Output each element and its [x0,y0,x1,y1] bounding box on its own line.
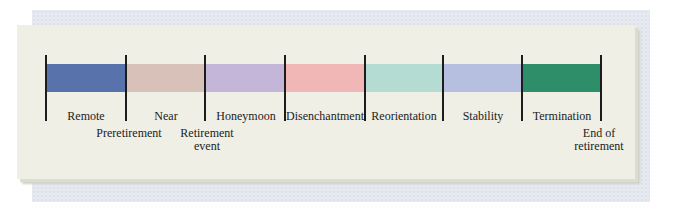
segment-label-termination: Termination [533,110,591,123]
marker-label-end-of-retirement: End of retirement [574,127,623,153]
marker-label-retirement-event: Retirement event [180,127,233,153]
segment-termination [522,64,601,92]
boundary-tick [521,55,523,121]
segment-remote [46,64,126,92]
segment-label-near: Near [154,110,177,123]
segment-disenchantment [285,64,365,92]
boundary-tick [364,55,366,121]
segment-stability [443,64,522,92]
boundary-tick [442,55,444,121]
boundary-tick [600,55,602,121]
diagram-card [17,25,635,179]
segment-label-disenchantment: Disenchantment [286,110,364,123]
boundary-tick [45,55,47,121]
marker-label-line: event [180,140,233,153]
segment-label-remote: Remote [67,110,104,123]
segment-honeymoon [205,64,285,92]
segment-reorientation [365,64,443,92]
marker-label-preretirement: Preretirement [96,127,161,140]
segment-label-stability: Stability [463,110,504,123]
segment-near [126,64,205,92]
marker-label-line: retirement [574,140,623,153]
boundary-tick [204,55,206,121]
segment-label-reorientation: Reorientation [371,110,436,123]
segment-label-honeymoon: Honeymoon [216,110,275,123]
boundary-tick [125,55,127,121]
